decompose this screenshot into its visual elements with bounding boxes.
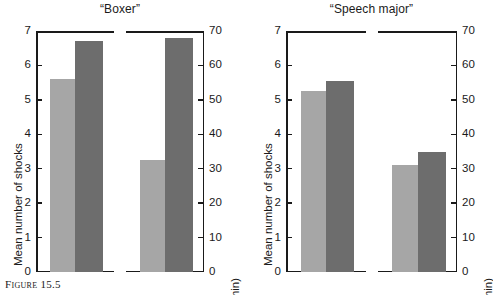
bar-shock-duration-light bbox=[140, 160, 168, 272]
right-axis-tick-label: 10 bbox=[209, 232, 222, 244]
bar-shock-count-dark bbox=[75, 41, 103, 272]
figure-15-5: “Boxer” 01234567 010203040506070 Mean nu… bbox=[0, 0, 493, 295]
right-axis-tick-label: 20 bbox=[209, 197, 222, 209]
left-axis-tick-label: 6 bbox=[25, 59, 31, 71]
bar-shock-count-light bbox=[301, 91, 329, 272]
right-axis-tick-label: 10 bbox=[462, 232, 475, 244]
figure-caption-prefix: Figure bbox=[5, 278, 37, 290]
left-axis-tick-label: 7 bbox=[275, 25, 281, 37]
chart-title-speech-major: “Speech major” bbox=[250, 2, 493, 16]
left-axis-tick-label: 5 bbox=[275, 94, 281, 106]
subpanel-shock-count bbox=[36, 31, 114, 272]
left-axis-tick-label: 6 bbox=[275, 59, 281, 71]
chart-group-speech-major: “Speech major” 01234567 010203040506070 … bbox=[250, 0, 493, 278]
bar-shock-duration-light bbox=[392, 165, 420, 272]
right-axis-tick-label: 50 bbox=[209, 94, 222, 106]
right-axis-tick-label: 30 bbox=[209, 163, 222, 175]
left-axis-title: Mean number of shocks bbox=[262, 143, 274, 266]
figure-caption: Figure 15.5 bbox=[5, 278, 61, 290]
subpanel-shock-duration bbox=[126, 31, 204, 272]
left-axis-tick-label: 3 bbox=[25, 163, 31, 175]
right-axis-tick-label: 40 bbox=[209, 128, 222, 140]
subpanel-shock-duration bbox=[378, 31, 458, 272]
left-axis-tick-label: 4 bbox=[275, 128, 281, 140]
left-axis-tick-label: 1 bbox=[275, 232, 281, 244]
left-axis-tick-label: 2 bbox=[25, 197, 31, 209]
right-axis-tick-label: 60 bbox=[462, 59, 475, 71]
right-axis-tick-label: 50 bbox=[462, 94, 475, 106]
right-axis-tick-label: 40 bbox=[462, 128, 475, 140]
right-axis-tick-label: 30 bbox=[462, 163, 475, 175]
right-axis-tick-label: 0 bbox=[209, 266, 215, 278]
right-axis-tick-label: 0 bbox=[462, 266, 468, 278]
left-axis-tick-label: 3 bbox=[275, 163, 281, 175]
left-axis-tick-label: 4 bbox=[25, 128, 31, 140]
left-axis-tick-label: 5 bbox=[25, 94, 31, 106]
plot-area-boxer: 01234567 010203040506070 bbox=[36, 31, 204, 272]
right-axis-tick-label: 70 bbox=[462, 25, 475, 37]
left-axis-tick-label: 0 bbox=[275, 266, 281, 278]
right-axis-tick-label: 60 bbox=[209, 59, 222, 71]
right-axis-title: Mean duration of shocks (0.001 min) bbox=[229, 278, 241, 295]
bar-shock-count-light bbox=[50, 79, 78, 272]
left-axis-tick-label: 2 bbox=[275, 197, 281, 209]
left-axis-tick-label: 1 bbox=[25, 232, 31, 244]
bar-shock-duration-dark bbox=[165, 38, 193, 272]
plot-area-speech-major: 01234567 010203040506070 bbox=[286, 31, 457, 272]
subpanel-shock-count bbox=[286, 31, 366, 272]
right-axis-tick-label: 20 bbox=[462, 197, 475, 209]
left-axis-title: Mean number of shocks bbox=[12, 143, 24, 266]
chart-title-boxer: “Boxer” bbox=[0, 2, 240, 16]
right-axis-title: Mean duration of shocks (0.001 min) bbox=[482, 278, 493, 295]
bar-shock-duration-dark bbox=[418, 152, 446, 273]
figure-caption-number: 15.5 bbox=[40, 278, 60, 290]
bar-shock-count-dark bbox=[326, 81, 354, 272]
chart-group-boxer: “Boxer” 01234567 010203040506070 Mean nu… bbox=[0, 0, 240, 278]
left-axis-tick-label: 0 bbox=[25, 266, 31, 278]
left-axis-tick-label: 7 bbox=[25, 25, 31, 37]
right-axis-tick-label: 70 bbox=[209, 25, 222, 37]
